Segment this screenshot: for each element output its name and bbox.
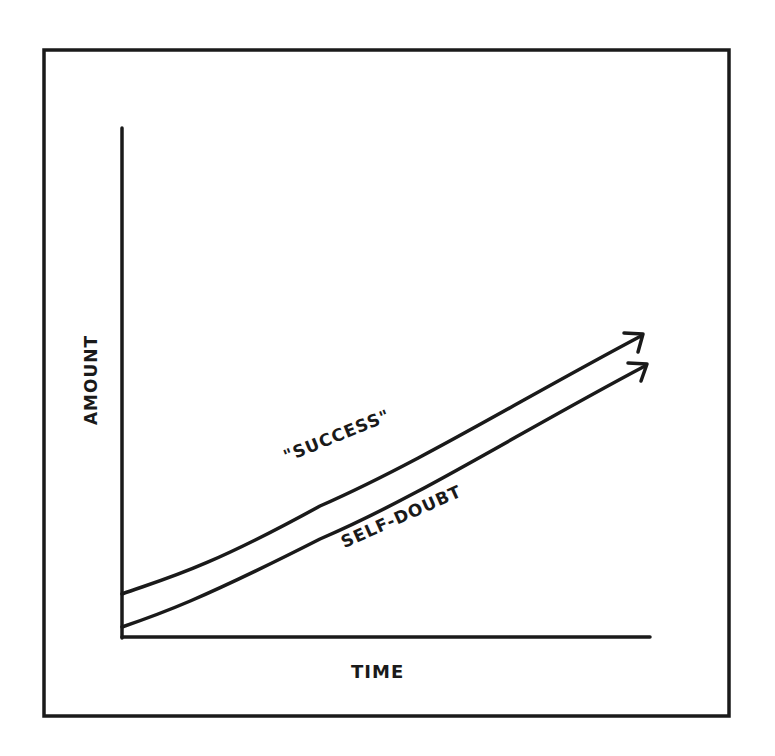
series-line-success (122, 336, 641, 594)
x-axis-label: TIME (351, 661, 404, 682)
frame-border (44, 50, 729, 716)
y-axis-label: AMOUNT (81, 325, 101, 435)
chart-canvas (0, 0, 775, 756)
